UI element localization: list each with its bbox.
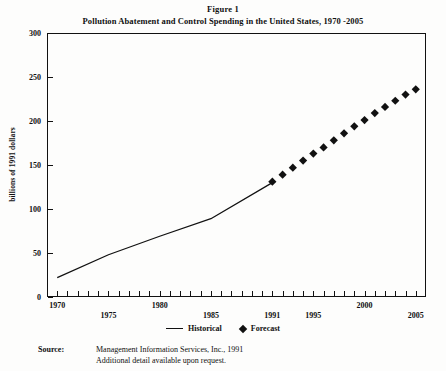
diamond-swatch-icon <box>239 324 247 332</box>
source-text: Management Information Services, Inc., 1… <box>96 345 243 366</box>
x-axis-tick-label: 2000 <box>345 301 385 310</box>
forecast-data-point <box>401 91 409 99</box>
forecast-data-point <box>289 164 297 172</box>
forecast-marker-series <box>268 85 420 186</box>
forecast-data-point <box>412 85 420 93</box>
x-axis-tick-label: 1991 <box>252 311 292 320</box>
page-title: Pollution Abatement and Control Spending… <box>0 15 446 27</box>
chart-legend: Historical Forecast <box>0 324 446 333</box>
y-axis-tick-label: 300 <box>15 29 41 38</box>
legend-entry-forecast: Forecast <box>240 324 280 333</box>
figure-number: Figure 1 <box>0 4 446 15</box>
y-axis-tick-label: 50 <box>15 249 41 258</box>
y-axis-tick-label: 100 <box>15 205 41 214</box>
historical-line-series <box>57 183 272 278</box>
forecast-data-point <box>299 157 307 165</box>
legend-label-forecast: Forecast <box>251 324 280 333</box>
legend-label-historical: Historical <box>188 324 222 333</box>
source-note: Source: Management Information Services,… <box>38 345 243 366</box>
forecast-data-point <box>278 171 286 179</box>
source-line-2: Additional detail available upon request… <box>96 356 243 367</box>
x-axis-tick-label: 1985 <box>191 311 231 320</box>
chart-plot-area <box>47 33 426 297</box>
x-axis-tick-label: 2005 <box>396 311 436 320</box>
forecast-data-point <box>350 122 358 130</box>
x-axis-tick-label: 1970 <box>37 301 77 310</box>
x-axis-tick-label: 1995 <box>293 311 333 320</box>
legend-entry-historical: Historical <box>166 324 222 333</box>
y-axis-tick-label: 150 <box>15 161 41 170</box>
forecast-data-point <box>309 149 317 157</box>
forecast-data-point <box>360 116 368 124</box>
y-axis-tick-label: 200 <box>15 117 41 126</box>
forecast-data-point <box>371 109 379 117</box>
forecast-data-point <box>391 97 399 105</box>
y-axis-tick-label: 250 <box>15 73 41 82</box>
line-swatch-icon <box>166 328 183 329</box>
forecast-data-point <box>381 103 389 111</box>
source-label: Source: <box>38 345 96 366</box>
source-line-1: Management Information Services, Inc., 1… <box>96 345 243 356</box>
forecast-data-point <box>340 129 348 137</box>
figure-page: Figure 1 Pollution Abatement and Control… <box>0 0 446 371</box>
x-axis-tick-label: 1980 <box>140 301 180 310</box>
y-axis-title: billions of 1991 dollars <box>8 90 17 240</box>
forecast-data-point <box>330 136 338 144</box>
x-axis-tick-label: 1975 <box>88 311 128 320</box>
y-axis-tick <box>48 297 53 298</box>
figure-title-block: Figure 1 Pollution Abatement and Control… <box>0 4 446 27</box>
forecast-data-point <box>319 143 327 151</box>
